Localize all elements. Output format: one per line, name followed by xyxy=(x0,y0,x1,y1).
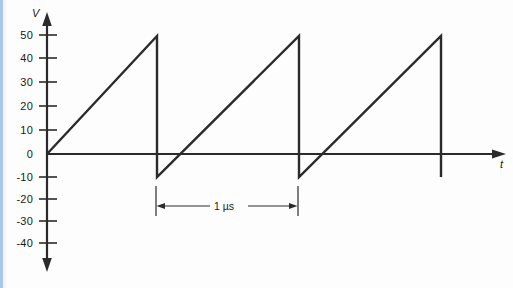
x-axis-arrow-right-icon xyxy=(492,149,506,158)
y-tick-label-minus-40: -40 xyxy=(0,237,33,249)
y-tick-label-minus-10: -10 xyxy=(0,171,33,183)
y-axis-label: V xyxy=(32,7,39,19)
y-tick-label-50: 50 xyxy=(0,29,33,41)
y-tick-label-minus-30: -30 xyxy=(0,215,33,227)
y-tick-label-40: 40 xyxy=(0,52,33,64)
y-tick-label-20: 20 xyxy=(0,100,33,112)
sawtooth-waveform-trace xyxy=(47,36,441,177)
x-axis-label: t xyxy=(500,158,503,170)
dimension-arrow-left-icon xyxy=(157,203,166,209)
y-tick-label-minus-20: -20 xyxy=(0,193,33,205)
dimension-arrow-right-icon xyxy=(289,203,298,209)
y-tick-label-0: 0 xyxy=(0,148,33,160)
y-axis-arrow-up-icon xyxy=(42,12,52,26)
waveform-figure: V t 50 40 30 20 10 0 -10 -20 -30 -40 1 µ… xyxy=(0,0,513,288)
y-tick-label-10: 10 xyxy=(0,124,33,136)
y-axis-arrow-down-icon xyxy=(42,258,52,272)
period-annotation-label: 1 µs xyxy=(214,200,234,212)
sawtooth-plot xyxy=(0,0,513,288)
y-tick-label-30: 30 xyxy=(0,76,33,88)
